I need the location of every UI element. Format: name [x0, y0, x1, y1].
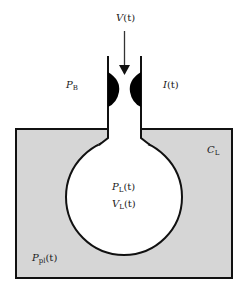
lung-pressure-arg: (t): [123, 181, 135, 192]
flow-label: V(t): [116, 13, 135, 23]
body-pressure-symbol: P: [66, 79, 73, 90]
flow-arg: (t): [123, 12, 135, 23]
flow-arrow-head: [119, 65, 130, 75]
body-pressure-label: PB: [66, 80, 78, 92]
airway-resistance-left: [108, 72, 119, 107]
lung-volume-arg: (t): [124, 198, 136, 209]
inertance-label: I(t): [163, 80, 179, 90]
compliance-label: CL: [207, 145, 219, 157]
pleural-pressure-arg: (t): [45, 252, 57, 263]
airway-resistance-right: [130, 72, 141, 107]
compliance-symbol: C: [207, 144, 215, 155]
inertance-arg: (t): [167, 79, 179, 90]
lung-pressure-symbol: P: [112, 181, 119, 192]
compliance-sub: L: [215, 149, 220, 157]
lung-alveolus: [66, 139, 182, 255]
pleural-pressure-label: Ppl(t): [32, 253, 57, 265]
lung-pressure-label: PL(t): [112, 182, 135, 194]
lung-volume-label: VL(t): [112, 199, 136, 211]
pleural-pressure-symbol: P: [32, 252, 39, 263]
body-pressure-sub: B: [73, 84, 78, 92]
